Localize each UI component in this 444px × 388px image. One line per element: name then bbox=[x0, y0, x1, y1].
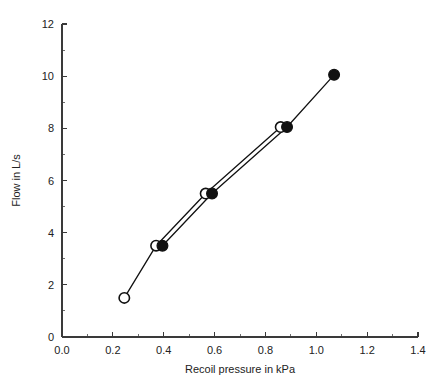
series-lines bbox=[124, 75, 334, 298]
series-line-filled-circle-series bbox=[162, 75, 334, 246]
chart-figure: 0.00.20.40.60.81.01.21.4 024681012 Recoi… bbox=[0, 0, 444, 388]
data-point-filled-circle-series bbox=[282, 122, 293, 133]
x-tick-label: 0.4 bbox=[156, 344, 171, 356]
y-tick-label: 8 bbox=[48, 122, 54, 134]
data-point-filled-circle-series bbox=[207, 188, 218, 199]
x-axis-tick-labels: 0.00.20.40.60.81.01.21.4 bbox=[54, 344, 425, 356]
chart-canvas: 0.00.20.40.60.81.01.21.4 024681012 Recoi… bbox=[0, 0, 444, 388]
x-tick-label: 0.0 bbox=[54, 344, 69, 356]
x-axis-title: Recoil pressure in kPa bbox=[185, 363, 296, 375]
y-tick-label: 0 bbox=[48, 331, 54, 343]
x-tick-label: 0.8 bbox=[258, 344, 273, 356]
y-tick-label: 4 bbox=[48, 227, 54, 239]
y-axis-major-ticks bbox=[62, 24, 67, 337]
data-point-filled-circle-series bbox=[329, 69, 340, 80]
series-markers bbox=[119, 69, 339, 303]
data-point-open-circle-series bbox=[119, 293, 129, 303]
y-tick-label: 10 bbox=[42, 70, 54, 82]
data-point-filled-circle-series bbox=[157, 240, 168, 251]
x-tick-label: 1.0 bbox=[309, 344, 324, 356]
y-tick-label: 12 bbox=[42, 18, 54, 30]
x-tick-label: 1.2 bbox=[359, 344, 374, 356]
y-axis-tick-labels: 024681012 bbox=[42, 18, 54, 343]
x-tick-label: 0.2 bbox=[105, 344, 120, 356]
y-tick-label: 6 bbox=[48, 175, 54, 187]
x-tick-label: 0.6 bbox=[207, 344, 222, 356]
x-tick-label: 1.4 bbox=[410, 344, 425, 356]
y-axis-title: Flow in L/s bbox=[10, 154, 22, 207]
y-tick-label: 2 bbox=[48, 279, 54, 291]
